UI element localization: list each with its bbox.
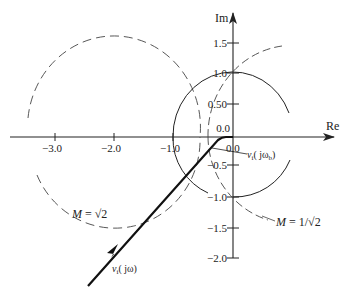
locus-label: vi( jω): [112, 263, 137, 276]
unit-circle: [173, 72, 290, 197]
re-axis-label: Re: [326, 119, 339, 133]
im-axis-label: Im: [215, 11, 229, 25]
svg-text:−1.5: −1.5: [207, 222, 227, 234]
real-axis: [10, 133, 334, 141]
m2-leader: [262, 216, 275, 221]
svg-text:0.0: 0.0: [216, 122, 230, 134]
m-sqrt2-label: M = √2: [71, 207, 107, 221]
svg-text:1.0: 1.0: [213, 67, 227, 79]
svg-text:−1.0: −1.0: [207, 191, 227, 203]
m-circle-sqrt2: [28, 36, 200, 228]
svg-text:0.0: 0.0: [226, 142, 240, 154]
svg-text:−0.5: −0.5: [207, 159, 227, 171]
svg-text:−2.0: −2.0: [101, 142, 121, 154]
svg-text:−2.0: −2.0: [207, 252, 227, 264]
svg-text:1.5: 1.5: [213, 37, 227, 49]
m-circle-diagram: −3.0 −2.0 −1.0 0.0 1.5 1.0 0.50 0.0 −0.5…: [0, 0, 345, 298]
svg-text:−1.0: −1.0: [160, 142, 180, 154]
svg-text:−3.0: −3.0: [42, 142, 62, 154]
locus-b-label: vi( jωb): [247, 149, 275, 162]
svg-text:0.50: 0.50: [208, 98, 228, 110]
imaginary-axis: [227, 13, 239, 258]
m-inv-sqrt2-label: M = 1/√2: [275, 215, 321, 229]
direction-arrow-icon: [107, 244, 118, 258]
